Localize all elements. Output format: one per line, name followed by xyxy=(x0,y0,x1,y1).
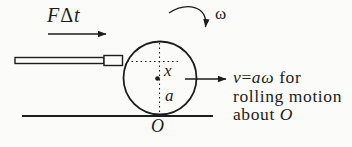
impulse-delta-symbol: Δ xyxy=(60,4,74,26)
impulse-label: FΔt xyxy=(47,5,81,25)
cue-stick xyxy=(15,56,123,66)
omega-label: ω xyxy=(215,5,226,22)
contact-point-label: O xyxy=(151,117,164,135)
rotation-arc-arrow-icon xyxy=(169,7,206,27)
about-word: about xyxy=(233,104,280,124)
annotation-line-1: v=aω for xyxy=(233,68,342,87)
strike-offset-label: x xyxy=(164,62,172,79)
impulse-F-symbol: F xyxy=(47,4,60,26)
cue-stick-tip xyxy=(104,56,123,66)
about-O-symbol: O xyxy=(280,104,293,124)
velocity-annotation: v=aω for rolling motion about O xyxy=(233,68,342,124)
annotation-line-2: rolling motion xyxy=(233,87,342,106)
rolling-wheel-impulse-figure: FΔt ω x a O v=aω for rolling motion abou… xyxy=(0,0,352,147)
wheel-center-dot xyxy=(155,76,160,81)
for-word: for xyxy=(274,67,301,87)
radius-label: a xyxy=(165,87,174,104)
a-omega-symbol: aω xyxy=(252,67,274,87)
annotation-line-3: about O xyxy=(233,105,342,124)
equals-sign: = xyxy=(241,67,251,87)
impulse-t-symbol: t xyxy=(74,4,81,26)
cue-stick-shaft xyxy=(15,58,104,64)
